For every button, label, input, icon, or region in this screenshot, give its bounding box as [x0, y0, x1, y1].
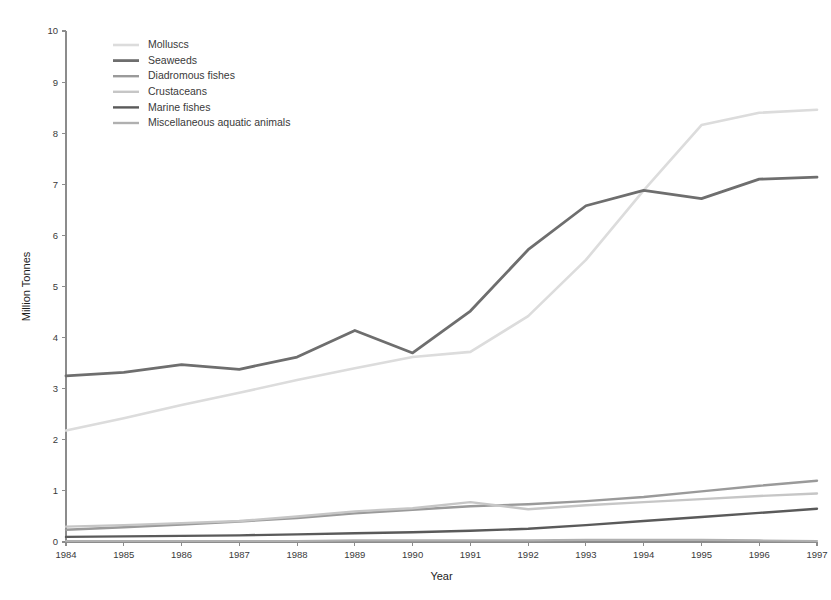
x-tick-label: 1991 [460, 549, 481, 560]
y-tick-label: 8 [53, 128, 58, 139]
y-tick-label: 7 [53, 179, 58, 190]
chart-legend: MolluscsSeaweedsDiadromous fishesCrustac… [113, 38, 290, 128]
x-tick-label: 1992 [518, 549, 539, 560]
y-tick-label: 2 [53, 434, 58, 445]
x-tick-label: 1990 [402, 549, 423, 560]
line-chart: 012345678910 198419851986198719881989199… [0, 0, 831, 600]
x-tick-label: 1985 [113, 549, 134, 560]
y-axis: 012345678910 [47, 25, 66, 547]
x-tick-label: 1994 [633, 549, 654, 560]
y-tick-label: 6 [53, 230, 58, 241]
x-tick-label: 1996 [749, 549, 770, 560]
legend-label: Crustaceans [148, 85, 207, 97]
x-tick-label: 1986 [171, 549, 192, 560]
legend-label: Molluscs [148, 38, 189, 50]
legend-label: Marine fishes [148, 101, 210, 113]
x-axis: 1984198519861987198819891990199119921993… [55, 542, 827, 560]
y-tick-label: 10 [47, 25, 58, 36]
series-line-molluscs [66, 110, 817, 431]
x-tick-label: 1984 [55, 549, 76, 560]
legend-label: Miscellaneous aquatic animals [148, 116, 290, 128]
x-tick-label: 1987 [229, 549, 250, 560]
chart-container: 012345678910 198419851986198719881989199… [0, 0, 831, 600]
x-tick-label: 1995 [691, 549, 712, 560]
data-series-group [66, 110, 817, 541]
x-tick-label: 1993 [575, 549, 596, 560]
series-line-miscellaneous-aquatic-animals [66, 540, 817, 541]
y-axis-title: Million Tonnes [20, 251, 32, 321]
x-axis-title: Year [430, 570, 453, 582]
y-tick-label: 4 [53, 332, 58, 343]
y-tick-label: 1 [53, 485, 58, 496]
x-tick-label: 1997 [806, 549, 827, 560]
y-tick-label: 5 [53, 281, 58, 292]
x-tick-label: 1989 [344, 549, 365, 560]
series-line-seaweeds [66, 177, 817, 376]
y-tick-label: 9 [53, 77, 58, 88]
legend-label: Diadromous fishes [148, 69, 235, 81]
legend-label: Seaweeds [148, 54, 197, 66]
x-tick-label: 1988 [287, 549, 308, 560]
y-tick-label: 0 [53, 536, 58, 547]
series-line-crustaceans [66, 493, 817, 526]
y-tick-label: 3 [53, 383, 58, 394]
